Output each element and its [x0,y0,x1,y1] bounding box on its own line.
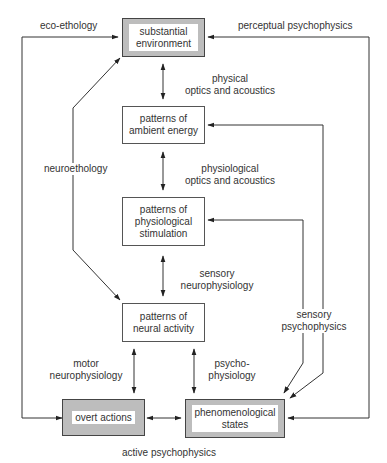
node-label: patterns of physiological stimulation [135,204,192,240]
label-neuroethology: neuroethology [43,163,108,175]
label-eco-ethology: eco-ethology [40,20,97,32]
node-label: patterns of ambient energy [129,113,198,137]
node-label: patterns of neural activity [133,311,194,335]
label-physical-optics: physical optics and acoustics [170,73,290,97]
node-phenomenological-states: phenomenological states [185,399,285,438]
node-label: phenomenological states [192,405,278,432]
node-label: overt actions [72,411,135,424]
node-neural-activity: patterns of neural activity [122,303,205,342]
arrow-neuroethology [73,58,120,300]
label-physiological-optics: physiological optics and acoustics [170,163,290,187]
node-ambient-energy: patterns of ambient energy [122,106,205,144]
label-psychophysiology: psycho- physiology [202,358,262,382]
label-sensory-psychophysics: sensory psychophysics [280,309,348,333]
node-physiological-stimulation: patterns of physiological stimulation [122,197,205,246]
label-perceptual-psychophysics: perceptual psychophysics [238,20,353,32]
diagram-canvas: substantial environment patterns of ambi… [0,0,387,463]
node-overt-actions: overt actions [62,399,145,436]
label-motor-neurophysiology: motor neurophysiology [44,358,128,382]
node-substantial-environment: substantial environment [122,18,205,57]
node-label: substantial environment [129,24,198,51]
label-sensory-neurophysiology: sensory neurophysiology [172,268,262,292]
label-active-psychophysics: active psychophysics [122,447,216,459]
